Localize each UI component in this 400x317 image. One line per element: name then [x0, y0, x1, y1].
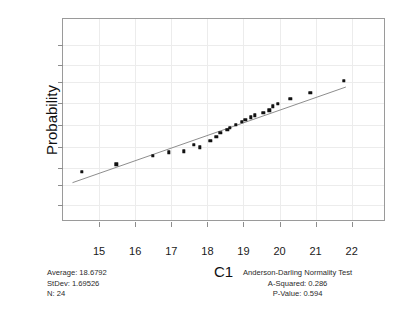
- x-tick-mark: [316, 222, 317, 227]
- a-squared-value: A-Squared: 0.286: [243, 279, 352, 290]
- x-tick-label: 20: [273, 245, 285, 257]
- summary-stats: Average: 18.6792 StDev: 1.69526 N: 24: [47, 268, 107, 300]
- x-tick-label: 16: [129, 245, 141, 257]
- stdev-stat: StDev: 1.69526: [47, 279, 107, 290]
- y-axis-title: Probability: [43, 84, 60, 154]
- normal-probability-plot: .999.99.95.80.50.20.05.01.001 1516171819…: [0, 0, 400, 317]
- x-tick-mark: [352, 222, 353, 227]
- test-title: Anderson-Darling Normality Test: [243, 268, 352, 279]
- x-tick-mark: [280, 222, 281, 227]
- x-tick-label: 22: [346, 245, 358, 257]
- x-tick-mark: [207, 222, 208, 227]
- x-tick-label: 15: [93, 245, 105, 257]
- p-value: P-Value: 0.594: [243, 289, 352, 300]
- fit-line: [63, 19, 384, 220]
- x-axis-title: C1: [214, 263, 233, 280]
- x-tick-mark: [99, 222, 100, 227]
- x-tick-mark: [243, 222, 244, 227]
- n-stat: N: 24: [47, 289, 107, 300]
- x-tick-label: 18: [201, 245, 213, 257]
- anderson-darling-test: Anderson-Darling Normality Test A-Square…: [243, 268, 352, 300]
- x-tick-label: 19: [237, 245, 249, 257]
- x-tick-label: 17: [165, 245, 177, 257]
- x-tick-label: 21: [309, 245, 321, 257]
- average-stat: Average: 18.6792: [47, 268, 107, 279]
- x-tick-mark: [171, 222, 172, 227]
- plot-area: .999.99.95.80.50.20.05.01.001 1516171819…: [62, 18, 385, 221]
- reference-line: [73, 87, 346, 183]
- x-tick-mark: [135, 222, 136, 227]
